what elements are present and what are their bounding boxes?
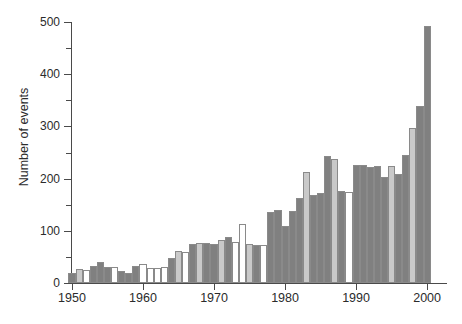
x-tick-1960 <box>143 283 144 290</box>
bar-1965 <box>175 251 182 283</box>
bar-1975 <box>246 244 253 283</box>
y-tick-label-wrap: 500 <box>14 16 60 28</box>
bar-1997 <box>402 155 409 283</box>
bar-1963 <box>161 267 168 283</box>
y-tick-100 <box>64 231 71 232</box>
y-tick-label-wrap: 300 <box>14 120 60 132</box>
y-tick-200 <box>64 179 71 180</box>
bar-1991 <box>360 165 367 283</box>
bar-1976 <box>253 245 260 283</box>
bar-1969 <box>203 243 210 283</box>
y-axis-title: Number of events <box>17 67 31 207</box>
bar-1973 <box>232 242 239 283</box>
x-axis-line <box>71 283 447 284</box>
bar-1953 <box>90 266 97 283</box>
bar-1977 <box>260 245 267 283</box>
bar-1979 <box>274 210 281 283</box>
bar-1980 <box>282 226 289 283</box>
x-tick-1950 <box>72 283 73 290</box>
bar-1974 <box>239 224 246 283</box>
y-tick-label-wrap: 200 <box>14 173 60 185</box>
bar-1967 <box>189 244 196 283</box>
y-tick-0 <box>64 283 71 284</box>
bar-1956 <box>111 267 118 283</box>
bar-1962 <box>154 268 161 283</box>
bar-1999 <box>416 106 423 283</box>
x-tick-label-1980: 1980 <box>262 292 308 305</box>
y-tick-label-wrap: 400 <box>14 68 60 80</box>
y-tick-label-wrap: 100 <box>14 225 60 237</box>
bar-1968 <box>196 243 203 283</box>
bar-1990 <box>353 165 360 283</box>
x-tick-1980 <box>285 283 286 290</box>
y-tick-400 <box>64 74 71 75</box>
y-tick-label-wrap: 0 <box>14 277 60 289</box>
bar-1989 <box>345 192 352 283</box>
bar-1983 <box>303 172 310 283</box>
bar-1970 <box>210 244 217 283</box>
bar-1982 <box>296 198 303 283</box>
bar-1984 <box>310 195 317 283</box>
y-tick-label-500: 500 <box>20 16 60 28</box>
bar-1971 <box>218 240 225 283</box>
x-tick-2000 <box>427 283 428 290</box>
bar-1950 <box>68 273 75 283</box>
y-tick-minor-250 <box>66 153 71 154</box>
y-tick-label-100: 100 <box>20 225 60 237</box>
y-axis-line <box>71 22 72 284</box>
bar-1951 <box>76 269 83 283</box>
y-tick-label-0: 0 <box>20 277 60 289</box>
x-tick-1990 <box>356 283 357 290</box>
bar-1957 <box>118 271 125 283</box>
bar-1988 <box>338 191 345 283</box>
y-tick-minor-350 <box>66 100 71 101</box>
bar-1992 <box>367 167 374 283</box>
bar-1996 <box>395 174 402 283</box>
bar-1985 <box>317 193 324 283</box>
y-tick-label-300: 300 <box>20 120 60 132</box>
bar-1966 <box>182 252 189 283</box>
bar-1986 <box>324 156 331 283</box>
bar-1972 <box>225 237 232 283</box>
y-tick-500 <box>64 22 71 23</box>
bar-1958 <box>125 273 132 283</box>
bar-1959 <box>132 266 139 283</box>
bar-1987 <box>331 159 338 283</box>
bar-1952 <box>83 270 90 283</box>
x-tick-label-1960: 1960 <box>120 292 166 305</box>
y-tick-label-400: 400 <box>20 68 60 80</box>
bar-1955 <box>104 267 111 283</box>
bar-1995 <box>388 166 395 283</box>
y-tick-300 <box>64 126 71 127</box>
bar-1994 <box>381 177 388 283</box>
bar-1981 <box>289 211 296 283</box>
y-tick-label-200: 200 <box>20 173 60 185</box>
x-tick-1970 <box>214 283 215 290</box>
y-tick-minor-450 <box>66 48 71 49</box>
bar-1954 <box>97 262 104 283</box>
y-tick-minor-50 <box>66 257 71 258</box>
x-tick-label-1970: 1970 <box>191 292 237 305</box>
bar-1960 <box>139 264 146 283</box>
bar-1961 <box>147 268 154 283</box>
x-tick-label-2000: 2000 <box>404 292 450 305</box>
bar-1978 <box>267 212 274 283</box>
bar-1964 <box>168 258 175 283</box>
bar-2000 <box>424 26 431 283</box>
bar-1993 <box>374 166 381 283</box>
y-tick-minor-150 <box>66 205 71 206</box>
x-tick-label-1990: 1990 <box>333 292 379 305</box>
bar-1998 <box>409 128 416 283</box>
x-tick-label-1950: 1950 <box>49 292 95 305</box>
bar-chart: Number of events 0100200300400500 195019… <box>0 0 462 324</box>
